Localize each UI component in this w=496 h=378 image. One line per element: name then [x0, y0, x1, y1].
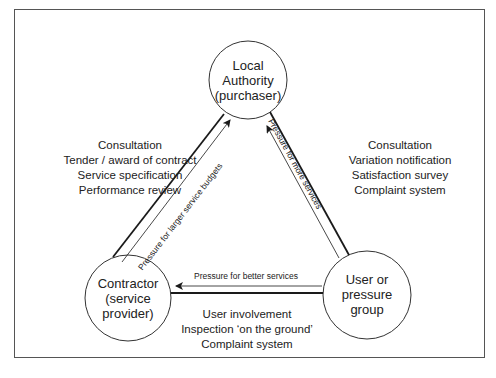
mechanism-item: User involvement: [170, 307, 324, 322]
mechanism-item: Tender / award of contract: [60, 153, 200, 168]
mechanism-item: Performance review: [60, 183, 200, 198]
mechanism-item: Service specification: [60, 168, 200, 183]
mechanism-item: Consultation: [60, 138, 200, 153]
pressure-label-better-services: Pressure for better services: [194, 271, 298, 281]
contractor-label-line: (service: [86, 291, 170, 306]
mechanism-item: Consultation: [330, 138, 470, 153]
user-label-line: User or: [327, 272, 407, 287]
user-label: User or pressure group: [327, 272, 407, 317]
contractor-user-mechanisms: User involvement Inspection ‘on the grou…: [170, 307, 324, 352]
authority-label-line: Authority: [208, 73, 288, 88]
user-label-line: group: [327, 302, 407, 317]
mechanism-item: Variation notification: [330, 153, 470, 168]
authority-contractor-mechanisms: Consultation Tender / award of contract …: [60, 138, 200, 198]
authority-label-line: Local: [208, 58, 288, 73]
contractor-label: Contractor (service provider): [86, 276, 170, 321]
pressure-arrow-more-services: [267, 126, 339, 258]
authority-user-mechanisms: Consultation Variation notification Sati…: [330, 138, 470, 198]
contractor-label-line: Contractor: [86, 276, 170, 291]
authority-label-line: (purchaser): [208, 88, 288, 103]
mechanism-item: Complaint system: [330, 183, 470, 198]
authority-label: Local Authority (purchaser): [208, 58, 288, 103]
mechanism-item: Satisfaction survey: [330, 168, 470, 183]
user-label-line: pressure: [327, 287, 407, 302]
contractor-label-line: provider): [86, 306, 170, 321]
mechanism-item: Complaint system: [170, 337, 324, 352]
mechanism-item: Inspection ‘on the ground’: [170, 322, 324, 337]
